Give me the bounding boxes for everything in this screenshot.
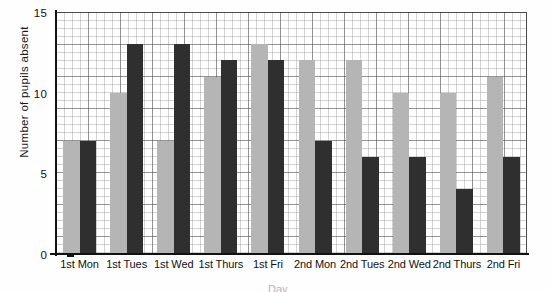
x-tick-label: 1st Thurs — [197, 258, 244, 270]
bar — [63, 141, 80, 254]
plot-area — [56, 12, 527, 254]
bars-layer — [56, 12, 527, 254]
chart-title-cropped — [150, 0, 370, 3]
x-tick-label: 2nd Mon — [292, 258, 339, 270]
x-axis-title-cropped: Day — [268, 283, 288, 292]
x-tick-label: 1st Fri — [244, 258, 291, 270]
bar — [268, 60, 285, 254]
bar — [440, 93, 457, 254]
chart-root: Number of pupils absent 051015 1st Mon1s… — [0, 0, 550, 292]
bar — [299, 60, 316, 254]
bar — [487, 77, 504, 254]
x-tick-label: 2nd Thurs — [433, 258, 480, 270]
bar — [221, 60, 238, 254]
bar — [409, 157, 426, 254]
bar — [127, 44, 144, 254]
bar — [456, 189, 473, 254]
x-axis-line — [50, 253, 529, 255]
bar — [174, 44, 191, 254]
y-tick-label: 5 — [18, 168, 52, 180]
bar — [157, 141, 174, 254]
bar — [346, 60, 363, 254]
bar — [503, 157, 520, 254]
bar — [80, 141, 97, 254]
bar — [393, 93, 410, 254]
y-tick-label: 0 — [18, 249, 52, 261]
bar — [204, 77, 221, 254]
x-tick-label: 1st Mon — [56, 258, 103, 270]
bar — [251, 44, 268, 254]
y-axis-line — [55, 10, 57, 256]
x-axis-labels: 1st Mon1st Tues1st Wed1st Thurs1st Fri2n… — [56, 258, 527, 276]
x-tick-label: 2nd Tues — [339, 258, 386, 270]
bar — [315, 141, 332, 254]
x-tick-label: 1st Wed — [150, 258, 197, 270]
y-axis-ticks: 051015 — [18, 0, 52, 292]
x-tick-label: 1st Tues — [103, 258, 150, 270]
y-tick-label: 15 — [18, 7, 52, 19]
y-tick-label: 10 — [18, 88, 52, 100]
bar — [362, 157, 379, 254]
x-tick-label: 2nd Wed — [386, 258, 433, 270]
y-tick-mark — [67, 255, 74, 257]
bar — [110, 93, 127, 254]
x-tick-label: 2nd Fri — [480, 258, 527, 270]
